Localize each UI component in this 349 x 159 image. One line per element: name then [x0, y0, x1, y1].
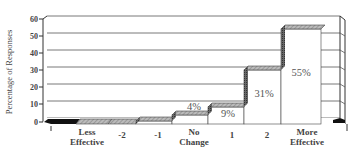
y-tick-0: 0 — [18, 118, 38, 127]
y-tick-40: 40 — [18, 49, 38, 58]
x-label-less-effective: Less Effective — [70, 127, 104, 147]
y-tick-20: 20 — [18, 83, 38, 92]
y-tick-30: 30 — [18, 66, 38, 75]
data-label-more-effective: 55% — [291, 67, 310, 78]
data-label-plus-2: 31% — [254, 88, 273, 99]
y-tick-50: 50 — [18, 32, 38, 41]
y-tick-10: 10 — [18, 100, 38, 109]
data-label-plus-1: 9% — [221, 108, 235, 119]
bar-minus-1 — [136, 117, 176, 124]
x-label-minus-1: -1 — [154, 130, 162, 140]
bar-chart: Percentage of Responses 60 50 40 30 20 1… — [0, 0, 349, 159]
bar-minus-2 — [108, 119, 140, 124]
bar-less-effective — [76, 119, 112, 124]
x-label-more-effective: More Effective — [290, 127, 324, 147]
x-label-no-change: No Change — [179, 127, 209, 147]
y-axis-label: Percentage of Responses — [2, 20, 16, 124]
x-label-plus-1: 1 — [230, 130, 235, 140]
y-tick-60: 60 — [18, 15, 38, 24]
bar-no-change — [172, 111, 212, 124]
data-label-no-change: 4% — [187, 101, 201, 112]
x-label-minus-2: -2 — [118, 130, 126, 140]
x-label-plus-2: 2 — [265, 130, 270, 140]
